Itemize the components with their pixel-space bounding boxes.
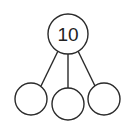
root-node-label: 10 (57, 24, 78, 45)
edge-root-left (41, 51, 58, 86)
child-node-middle (52, 88, 84, 120)
edge-root-right (78, 51, 95, 86)
number-bond-diagram: 10 (0, 0, 131, 127)
child-node-right (88, 83, 120, 115)
child-node-left (15, 83, 47, 115)
